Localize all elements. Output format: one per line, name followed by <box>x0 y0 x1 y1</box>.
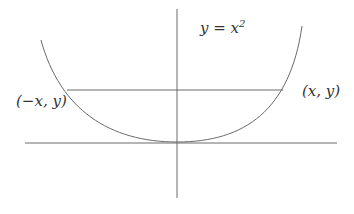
parabola-curve <box>41 26 302 142</box>
equation-text: y = x <box>200 19 239 37</box>
point-label-right: (x, y) <box>302 82 340 100</box>
equation-label: y = x2 <box>200 18 245 37</box>
equation-exponent: 2 <box>239 18 245 29</box>
point-label-left: (−x, y) <box>16 92 67 110</box>
